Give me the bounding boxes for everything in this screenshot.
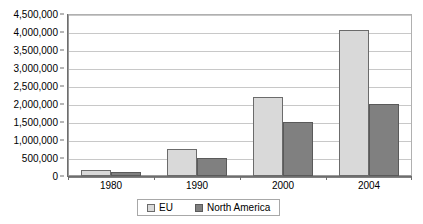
y-axis-tick: [60, 176, 64, 177]
x-axis-tick-label: 1990: [186, 180, 208, 191]
y-axis-tick-label: 3,500,000: [14, 45, 59, 56]
legend-item-eu: EU: [147, 202, 173, 213]
bar-group: [167, 14, 227, 176]
y-axis-tick: [60, 104, 64, 105]
y-axis-tick-label: 1,000,000: [14, 135, 59, 146]
y-axis-tick-label: 2,500,000: [14, 81, 59, 92]
y-axis-tick-label: 1,500,000: [14, 117, 59, 128]
bar-eu-2004: [339, 30, 369, 176]
legend-swatch-icon: [147, 204, 155, 212]
y-axis-tick: [60, 140, 64, 141]
y-axis-tick: [60, 14, 64, 15]
legend-item-north-america: North America: [195, 202, 270, 213]
x-axis-tick-label: 2004: [358, 180, 380, 191]
y-axis-tick-label: 4,500,000: [14, 9, 59, 20]
bar-north-america-2000: [283, 122, 313, 176]
bar-chart: 4,500,0004,000,0003,500,0003,000,0002,50…: [0, 0, 423, 224]
y-axis-tick: [60, 158, 64, 159]
x-axis-tick-label: 1980: [100, 180, 122, 191]
x-axis-tick-label: 2000: [272, 180, 294, 191]
bar-north-america-2004: [369, 104, 399, 176]
bar-group: [339, 14, 399, 176]
y-axis-tick: [60, 122, 64, 123]
x-axis-labels: 1980199020002004: [68, 180, 412, 196]
y-axis-tick-label: 4,000,000: [14, 27, 59, 38]
y-axis-tick: [60, 68, 64, 69]
y-axis-tick: [60, 50, 64, 51]
bar-eu-1990: [167, 149, 197, 176]
chart-legend: EUNorth America: [137, 199, 280, 216]
y-axis-tick-label: 500,000: [22, 153, 58, 164]
bar-group: [81, 14, 141, 176]
y-axis-tick-label: 0: [52, 171, 58, 182]
y-axis-tick: [60, 32, 64, 33]
y-axis-tick: [60, 86, 64, 87]
legend-label: EU: [159, 202, 173, 213]
legend-swatch-icon: [195, 204, 203, 212]
y-axis-tick-label: 2,000,000: [14, 99, 59, 110]
bar-north-america-1990: [197, 158, 227, 176]
y-axis: 4,500,0004,000,0003,500,0003,000,0002,50…: [0, 14, 64, 176]
y-axis-tick-label: 3,000,000: [14, 63, 59, 74]
bars-layer: [68, 14, 412, 176]
bar-eu-2000: [253, 97, 283, 176]
legend-label: North America: [207, 202, 270, 213]
bar-group: [253, 14, 313, 176]
